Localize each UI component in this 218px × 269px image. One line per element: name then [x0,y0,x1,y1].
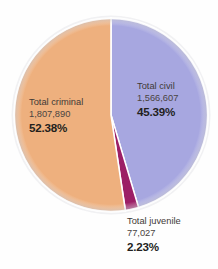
slice-label-civil: Total civil 1,566,607 45.39% [137,81,178,119]
slice-label-civil-value: 1,566,607 [137,93,178,104]
slice-label-criminal: Total criminal 1,807,890 52.38% [29,97,83,135]
slice-label-criminal-value: 1,807,890 [29,109,83,120]
slice-label-juvenile-title: Total juvenile [127,216,181,227]
slice-label-civil-percent: 45.39% [137,105,178,119]
slice-label-juvenile-value: 77,027 [127,228,181,239]
pie-chart-figure: Total criminal 1,807,890 52.38% Total ci… [0,0,218,269]
slice-label-juvenile-percent: 2.23% [127,240,181,254]
slice-label-civil-title: Total civil [137,81,178,92]
slice-label-juvenile: Total juvenile 77,027 2.23% [127,216,181,254]
slice-label-criminal-percent: 52.38% [29,121,83,135]
slice-label-criminal-title: Total criminal [29,97,83,108]
